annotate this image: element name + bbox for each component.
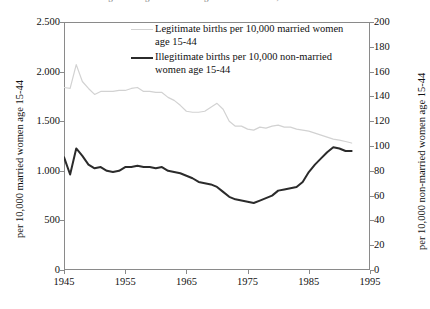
y-axis-right-tick-label: 140 — [374, 91, 400, 102]
y-axis-right-tick-label: 60 — [374, 191, 400, 202]
y-axis-right-tick-mark — [370, 245, 374, 246]
chart-legend: Legitimate births per 10,000 married wom… — [131, 23, 356, 79]
y-axis-right-tick-label: 160 — [374, 67, 400, 78]
x-axis-tick-mark — [64, 270, 65, 274]
y-axis-right-tick-label: 200 — [374, 17, 400, 28]
y-axis-right-tick-mark — [370, 47, 374, 48]
y-axis-left-tick-mark — [60, 72, 64, 73]
figure-title-cropped: Figure 1. Legitimate and Illegitimate Bi… — [0, 0, 430, 8]
y-axis-right-tick-mark — [370, 72, 374, 73]
y-axis-right-tick-mark — [370, 270, 374, 271]
y-axis-right-ticks: 020406080100120140160180200 — [374, 0, 404, 309]
legend-item-legitimate: Legitimate births per 10,000 married wom… — [131, 23, 356, 48]
legend-swatch-illegitimate-icon — [131, 51, 153, 63]
y-axis-right-tick-label: 80 — [374, 166, 400, 177]
y-axis-right-tick-mark — [370, 96, 374, 97]
x-axis-tick-label: 1995 — [350, 276, 390, 287]
x-axis-tick-mark — [125, 270, 126, 274]
y-axis-left-tick-mark — [60, 270, 64, 271]
x-axis-tick-label: 1975 — [228, 276, 268, 287]
y-axis-right-tick-mark — [370, 146, 374, 147]
y-axis-right-tick-label: 20 — [374, 240, 400, 251]
y-axis-right-title: per 10,000 non-married women age 15-44 — [416, 73, 427, 250]
y-axis-right-tick-mark — [370, 196, 374, 197]
y-axis-left-title: per 10,000 married women age 15-44 — [14, 80, 25, 238]
legend-item-illegitimate: Illegitimate births per 10,000 non-marri… — [131, 51, 356, 76]
x-axis-tick-mark — [248, 270, 249, 274]
y-axis-left-tick-mark — [60, 121, 64, 122]
y-axis-right-tick-mark — [370, 220, 374, 221]
y-axis-left-tick-label: 2.000 — [16, 67, 60, 78]
y-axis-right-tick-label: 180 — [374, 42, 400, 53]
y-axis-left-tick-mark — [60, 220, 64, 221]
y-axis-right-tick-label: 120 — [374, 116, 400, 127]
y-axis-right-tick-mark — [370, 171, 374, 172]
x-axis-tick-label: 1955 — [105, 276, 145, 287]
y-axis-right-tick-label: 0 — [374, 265, 400, 276]
y-axis-right-tick-label: 100 — [374, 141, 400, 152]
y-axis-left-tick-mark — [60, 171, 64, 172]
y-axis-left-tick-label: 0 — [16, 265, 60, 276]
birth-rates-chart-figure: Figure 1. Legitimate and Illegitimate Bi… — [0, 0, 430, 309]
legend-label-illegitimate: Illegitimate births per 10,000 non-marri… — [155, 51, 356, 76]
y-axis-right-tick-mark — [370, 22, 374, 23]
y-axis-left-tick-mark — [60, 22, 64, 23]
y-axis-left-tick-label: 2.500 — [16, 17, 60, 28]
legend-label-legitimate: Legitimate births per 10,000 married wom… — [155, 23, 356, 48]
y-axis-right-tick-mark — [370, 121, 374, 122]
x-axis-tick-mark — [309, 270, 310, 274]
y-axis-right-tick-label: 40 — [374, 215, 400, 226]
x-axis-tick-label: 1985 — [289, 276, 329, 287]
series-line-illegitimate — [64, 147, 352, 203]
x-axis-tick-mark — [186, 270, 187, 274]
x-axis-tick-label: 1945 — [44, 276, 84, 287]
x-axis-tick-label: 1965 — [166, 276, 206, 287]
legend-swatch-legitimate-icon — [131, 23, 153, 35]
